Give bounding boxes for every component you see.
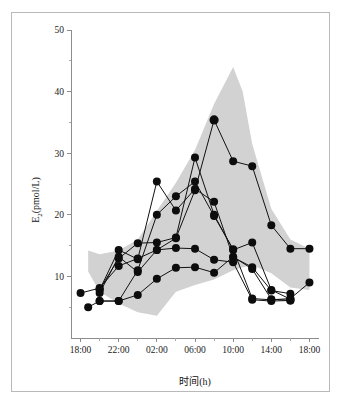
data-point: [286, 296, 294, 304]
data-point: [209, 115, 218, 124]
data-point: [210, 256, 218, 264]
data-point: [134, 255, 142, 263]
data-point: [153, 239, 161, 247]
data-point: [84, 303, 92, 311]
data-point: [134, 291, 142, 299]
data-point: [153, 246, 161, 254]
x-tick-label: 06:00: [184, 345, 206, 355]
y-axis-title-unit: (pmol/L): [30, 177, 42, 213]
y-tick-label: 20: [55, 210, 65, 220]
x-tick-label: 14:00: [260, 345, 282, 355]
y-tick-label: 50: [55, 25, 65, 35]
data-point: [96, 297, 104, 305]
data-point: [191, 263, 199, 271]
data-point: [96, 289, 104, 297]
data-point: [172, 206, 180, 214]
data-point: [248, 239, 256, 247]
data-point: [191, 154, 199, 162]
y-tick-label: 10: [55, 272, 65, 282]
data-point: [191, 245, 199, 253]
x-tick-label: 18:00: [299, 345, 321, 355]
y-tick-label: 40: [55, 87, 65, 97]
data-point: [267, 286, 275, 294]
data-point: [115, 253, 123, 261]
data-point: [305, 245, 313, 253]
data-point: [77, 289, 85, 297]
svg-text:E2(pmol/L): E2(pmol/L): [30, 177, 44, 223]
data-point: [191, 185, 199, 193]
data-point: [267, 295, 275, 303]
x-tick-label: 02:00: [146, 345, 168, 355]
y-tick-label: 30: [55, 149, 65, 159]
data-point: [153, 178, 161, 186]
data-point: [172, 244, 180, 252]
data-point: [229, 157, 237, 165]
data-point: [115, 262, 123, 270]
data-point: [248, 296, 256, 304]
data-point: [210, 269, 218, 277]
x-tick-label: 18:00: [70, 345, 92, 355]
figure-root: 102030405018:0022:0002:0006:0010:0014:00…: [0, 0, 341, 405]
data-point: [229, 253, 237, 261]
data-point: [172, 192, 180, 200]
data-point: [172, 234, 180, 242]
x-axis-title: 时间(h): [179, 375, 211, 388]
x-tick-label: 10:00: [222, 345, 244, 355]
data-point: [305, 279, 313, 287]
data-point: [286, 245, 294, 253]
data-point: [267, 221, 275, 229]
x-tick-label: 22:00: [108, 345, 130, 355]
line-chart: 102030405018:0022:0002:0006:0010:0014:00…: [0, 0, 341, 405]
y-axis-title: E2(pmol/L): [30, 177, 44, 223]
data-point: [153, 275, 161, 283]
data-point: [248, 265, 256, 273]
data-point: [248, 162, 256, 170]
data-point: [210, 198, 218, 206]
data-point: [153, 211, 161, 219]
data-point: [210, 211, 218, 219]
data-point: [115, 297, 123, 305]
data-point: [172, 264, 180, 272]
data-point: [191, 178, 199, 186]
data-point: [134, 268, 142, 276]
data-point: [134, 239, 142, 247]
